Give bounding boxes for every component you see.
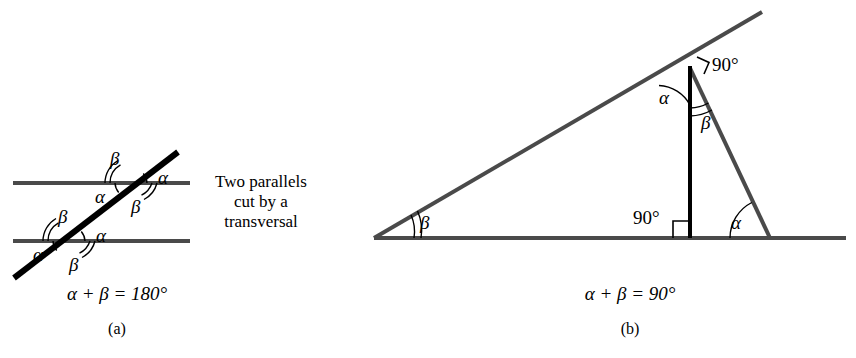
label-apex-beta: β [701,113,710,132]
panel-b-graphics [374,12,846,238]
label-lower-alpha-bottom-left: α [33,245,43,264]
label-lower-alpha-top-right: α [96,226,106,245]
panel-a-caption-line-1: Two parallels [196,172,326,192]
apex-right-angle-marker [697,57,709,74]
label-lower-beta-top-left: β [58,207,67,226]
label-apex-right-angle: 90° [712,55,739,74]
label-left-vertex-beta: β [420,213,429,232]
label-right-vertex-alpha: α [731,213,741,232]
label-upper-beta-bottom-right: β [131,197,140,216]
label-upper-alpha-top-right: α [158,168,168,187]
panel-b-label: (b) [575,320,685,339]
label-apex-alpha: α [659,88,669,107]
label-upper-beta-top-left: β [110,149,119,168]
label-lower-beta-bottom-right: β [69,255,78,274]
panel-b-equation: α + β = 90° [540,283,720,305]
panel-a-caption-line-3: transversal [196,212,326,232]
label-upper-alpha-bottom-left: α [95,187,105,206]
panel-a-label: (a) [62,320,172,339]
label-base-right-angle: 90° [633,208,660,227]
base-right-angle-marker [673,221,690,238]
triangle-right-side [690,68,770,238]
panel-a-caption-line-2: cut by a [196,192,326,212]
panel-a-caption: Two parallels cut by a transversal [196,172,326,232]
panel-a-equation: α + β = 180° [32,283,202,305]
